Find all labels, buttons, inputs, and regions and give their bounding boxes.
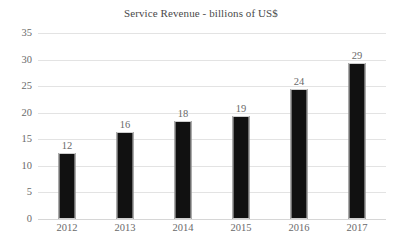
y-axis-tick-label: 0 [6,214,32,224]
chart-title: Service Revenue - billions of US$ [0,7,402,20]
bar[interactable] [59,153,76,219]
bar[interactable] [117,132,134,219]
x-axis: 201220132014201520162017 [38,222,386,238]
bar-value-label: 19 [236,103,247,114]
x-axis-tick-label: 2016 [270,222,328,234]
bar-slot: 19 [212,33,270,219]
y-axis-tick-label: 35 [6,28,32,38]
bar[interactable] [175,121,192,219]
y-axis: 35302520151050 [0,33,32,219]
bar-slot: 29 [328,33,386,219]
y-axis-tick-label: 15 [6,134,32,144]
bar-value-label: 24 [294,76,305,87]
gridline [38,219,386,220]
x-axis-tick-label: 2013 [96,222,154,234]
y-axis-tick-label: 10 [6,161,32,171]
bar[interactable] [233,116,250,219]
y-axis-tick-label: 20 [6,108,32,118]
y-axis-tick-label: 25 [6,81,32,91]
plot-area: 121618192429 [38,33,386,219]
bar-value-label: 29 [352,50,363,61]
x-axis-tick-label: 2012 [38,222,96,234]
bar[interactable] [291,89,308,219]
x-axis-tick-label: 2014 [154,222,212,234]
bar-slot: 12 [38,33,96,219]
bar-value-label: 16 [120,119,131,130]
x-axis-tick-label: 2015 [212,222,270,234]
bar[interactable] [349,63,366,219]
y-axis-tick-label: 30 [6,55,32,65]
x-axis-tick-label: 2017 [328,222,386,234]
bar-slot: 24 [270,33,328,219]
bar-value-label: 12 [62,140,73,151]
bar-chart: Service Revenue - billions of US$ 353025… [0,0,402,242]
y-axis-tick-label: 5 [6,187,32,197]
bar-value-label: 18 [178,108,189,119]
bar-slot: 18 [154,33,212,219]
bar-slot: 16 [96,33,154,219]
